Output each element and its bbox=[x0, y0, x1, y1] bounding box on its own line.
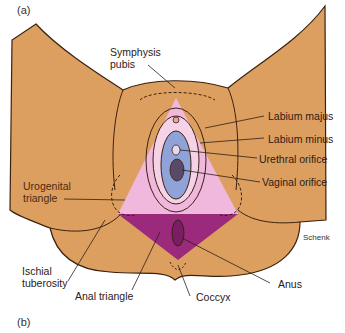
anus bbox=[172, 220, 184, 246]
artist-signature: Schenk bbox=[303, 232, 330, 244]
label-urogenital-line1: Urogenital bbox=[23, 180, 71, 192]
label-labium-majus: Labium majus bbox=[268, 110, 333, 122]
label-vaginal-orifice: Vaginal orifice bbox=[262, 176, 327, 188]
label-anus: Anus bbox=[278, 278, 302, 290]
label-ischial-line2: tuberosity bbox=[22, 277, 68, 289]
panel-label-a: (a) bbox=[17, 4, 30, 16]
label-labium-minus: Labium minus bbox=[268, 133, 333, 145]
label-symphysis-line2: pubis bbox=[110, 58, 161, 70]
label-ischial-tuberosity: Ischial tuberosity bbox=[22, 265, 68, 289]
label-symphysis-line1: Symphysis bbox=[110, 46, 161, 58]
label-symphysis-pubis: Symphysis pubis bbox=[110, 46, 161, 70]
label-urethral-orifice: Urethral orifice bbox=[259, 153, 327, 165]
label-coccyx: Coccyx bbox=[196, 291, 230, 303]
label-urogenital-triangle: Urogenital triangle bbox=[23, 180, 71, 204]
label-ischial-line1: Ischial bbox=[22, 265, 68, 277]
panel-label-b: (b) bbox=[17, 316, 30, 328]
label-urogenital-line2: triangle bbox=[23, 192, 71, 204]
label-anal-triangle: Anal triangle bbox=[75, 290, 133, 302]
